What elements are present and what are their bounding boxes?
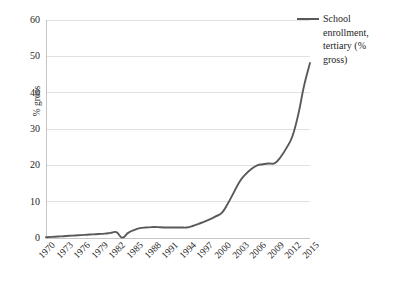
legend-color-swatch <box>297 18 319 20</box>
y-axis-tick-label: 30 <box>18 124 40 134</box>
chart-legend: School enrollment, tertiary (% gross) <box>297 12 393 66</box>
y-axis-tick-label: 20 <box>18 160 40 170</box>
y-axis-tick-label: 60 <box>18 15 40 25</box>
chart-svg <box>46 20 310 238</box>
legend-label: School enrollment, tertiary (% gross) <box>323 12 391 66</box>
plot-area <box>46 20 310 238</box>
y-axis-tick-label: 50 <box>18 51 40 61</box>
x-axis-tick-labels: 1970197319761979198219851988199119941997… <box>46 240 310 285</box>
y-axis-tick-labels: 6050403020100 <box>18 0 40 285</box>
y-axis-tick-label: 10 <box>18 197 40 207</box>
series-line <box>46 63 310 238</box>
y-axis-tick-label: 40 <box>18 88 40 98</box>
chart-container: % gross 6050403020100 197019731976197919… <box>0 0 394 285</box>
y-axis-tick-label: 0 <box>18 233 40 243</box>
